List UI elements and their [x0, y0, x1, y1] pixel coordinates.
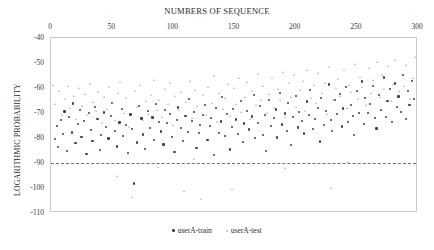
- data-point-train: [383, 76, 385, 78]
- data-point-train: [408, 104, 410, 106]
- data-point-train: [149, 127, 151, 129]
- data-point-train: [83, 120, 85, 122]
- data-point-test: [414, 56, 416, 58]
- data-point-train: [90, 129, 92, 131]
- data-point-train: [331, 130, 333, 132]
- data-point-train: [262, 134, 264, 136]
- legend-entry-userA-test[interactable]: userA-test: [226, 226, 262, 235]
- data-point-test: [106, 108, 108, 110]
- data-point-test: [347, 161, 349, 163]
- data-point-train: [160, 130, 162, 132]
- data-point-test: [128, 126, 130, 128]
- data-point-test: [326, 113, 328, 115]
- data-point-train: [265, 150, 267, 152]
- data-point-test: [183, 190, 185, 192]
- legend-marker-circle-icon: [172, 229, 174, 231]
- y-tick-50: -50: [22, 58, 44, 67]
- x-tick-100: 100: [167, 22, 178, 31]
- data-point-train: [125, 124, 127, 126]
- data-point-test: [61, 114, 63, 116]
- data-point-train: [213, 154, 215, 156]
- data-point-test: [158, 99, 160, 101]
- data-point-train: [142, 133, 144, 135]
- data-point-test: [335, 87, 337, 89]
- data-point-test: [78, 87, 80, 89]
- data-point-train: [306, 100, 308, 102]
- data-point-test: [350, 91, 352, 93]
- data-point-test: [75, 118, 77, 120]
- data-point-train: [264, 114, 266, 116]
- data-point-train: [177, 106, 179, 108]
- data-point-train: [74, 142, 76, 144]
- data-point-test: [108, 86, 110, 88]
- data-point-train: [171, 136, 173, 138]
- data-point-test: [412, 77, 414, 79]
- data-point-train: [176, 119, 178, 121]
- data-point-train: [358, 112, 360, 114]
- data-point-test: [337, 78, 339, 80]
- data-point-test: [58, 90, 60, 92]
- data-point-train: [413, 98, 415, 100]
- data-point-test: [332, 99, 334, 101]
- data-point-test: [372, 79, 374, 81]
- data-point-train: [72, 102, 74, 104]
- data-point-train: [320, 97, 322, 99]
- data-point-test: [268, 93, 270, 95]
- data-point-train: [96, 118, 98, 120]
- data-point-train: [85, 153, 87, 155]
- data-point-train: [328, 83, 330, 85]
- data-point-test: [417, 87, 418, 89]
- data-point-train: [215, 107, 217, 109]
- data-point-train: [298, 111, 300, 113]
- data-point-test: [387, 65, 389, 67]
- legend-entry-userA-train[interactable]: userA-train: [172, 226, 212, 235]
- data-point-test: [218, 92, 220, 94]
- data-point-train: [66, 150, 68, 152]
- data-point-train: [374, 117, 376, 119]
- data-point-train: [100, 134, 102, 136]
- data-point-test: [145, 100, 147, 102]
- data-point-test: [136, 106, 138, 108]
- data-point-train: [240, 100, 242, 102]
- data-point-test: [86, 114, 88, 116]
- data-point-test: [169, 82, 171, 84]
- data-point-train: [317, 107, 319, 109]
- data-point-train: [121, 108, 123, 110]
- data-point-train: [122, 135, 124, 137]
- data-point-test: [112, 102, 114, 104]
- data-point-train: [209, 125, 211, 127]
- data-point-train: [308, 114, 310, 116]
- data-point-test: [89, 83, 91, 85]
- data-point-test: [222, 108, 224, 110]
- data-point-train: [292, 116, 294, 118]
- data-point-test: [409, 98, 411, 100]
- data-point-test: [401, 73, 403, 75]
- data-point-train: [77, 123, 79, 125]
- data-point-test: [390, 100, 392, 102]
- data-point-train: [54, 138, 56, 140]
- data-point-train: [290, 144, 292, 146]
- data-point-test: [361, 86, 363, 88]
- data-point-train: [400, 111, 402, 113]
- data-point-test: [273, 107, 275, 109]
- data-point-train: [60, 119, 62, 121]
- data-point-test: [381, 74, 383, 76]
- data-point-test: [244, 96, 246, 98]
- data-point-test: [306, 69, 308, 71]
- data-point-train: [210, 117, 212, 119]
- data-point-train: [99, 149, 101, 151]
- data-point-test: [271, 77, 273, 79]
- data-point-train: [375, 127, 377, 129]
- data-point-train: [56, 125, 58, 127]
- data-point-train: [199, 124, 201, 126]
- data-point-train: [105, 126, 107, 128]
- data-point-train: [405, 118, 407, 120]
- data-point-test: [123, 112, 125, 114]
- data-point-train: [232, 108, 234, 110]
- data-point-test: [315, 102, 317, 104]
- data-point-train: [276, 136, 278, 138]
- y-tick-70: -70: [22, 108, 44, 117]
- data-point-train: [391, 121, 393, 123]
- data-point-test: [174, 95, 176, 97]
- data-point-train: [341, 125, 343, 127]
